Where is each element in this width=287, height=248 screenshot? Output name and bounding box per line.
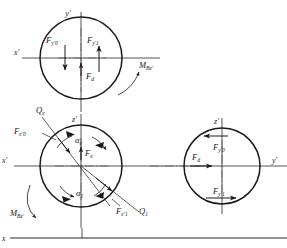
mid-force-upperleft-label: Fe′0: [13, 126, 26, 137]
mid-moment-arc: [27, 185, 36, 218]
load-lower-arrow: [96, 178, 112, 191]
load-upper-label: Qe: [36, 105, 45, 116]
top-force-center-label: Fd: [85, 71, 94, 82]
top-x-axis-label: x′: [13, 48, 20, 57]
mid-x-axis-label: x′: [1, 156, 8, 165]
mid-force-upperleft-leader: [42, 133, 56, 140]
mid-z-axis-label: z′: [71, 115, 77, 124]
right-y-axis-label: y′: [271, 156, 278, 165]
baseline-group: x: [1, 228, 287, 243]
mid-moment-label: MBz′: [9, 208, 25, 219]
mid-force-lowerright-label: Fe′1: [115, 206, 128, 217]
mid-force-center-label: Fe: [84, 148, 93, 159]
middle-circle-group: Qe Q1 Fe′0 Fe′1 Fe αe α1 MBz′ x′ z′: [1, 105, 287, 228]
mid-force-lowerright-leader: [112, 199, 120, 206]
mid-tangent-head-lower-left: [62, 196, 71, 202]
top-circle-group: y′ x′ Fy′0 Fy′1 Fd MBz′: [13, 9, 160, 112]
top-y-axis-label: y′: [64, 9, 71, 18]
top-force-left-label: Fy′0: [45, 35, 58, 46]
baseline-axis-label: x: [1, 234, 6, 243]
angle-lower-label: α1: [76, 188, 83, 199]
top-moment-arc: [118, 72, 139, 95]
top-force-right-label: Fy′1: [86, 35, 99, 46]
right-force-top-label: Fy′0: [212, 142, 225, 153]
force-diagram-figure: y′ x′ Fy′0 Fy′1 Fd MBz′: [0, 0, 287, 248]
right-force-bottom-label: Fy′1: [212, 186, 225, 197]
right-z-axis-label: z′: [213, 117, 219, 126]
top-moment-label: MBz′: [138, 60, 154, 71]
angle-lower-arc-left: [60, 186, 74, 197]
load-lower-label: Q1: [139, 206, 148, 217]
right-circle-group: z′ y′ Fy′0 Fd Fy′1: [184, 117, 278, 214]
angle-upper-arc-right: [92, 137, 106, 150]
right-force-center-label: Fd: [191, 152, 200, 163]
